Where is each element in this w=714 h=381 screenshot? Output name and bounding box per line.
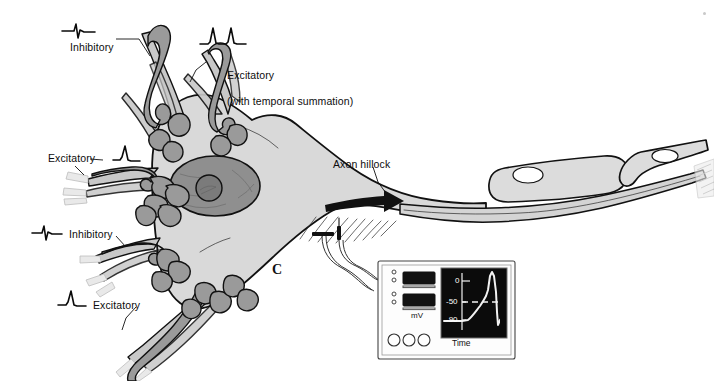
corner-speck (703, 12, 706, 15)
control-knobs (388, 334, 430, 346)
leader-inhibitory-left (116, 236, 126, 247)
scope-ytick-minus90: -90 (446, 315, 458, 324)
neuron-illustration: .ink { fill:none; stroke:#111; stroke-wi… (0, 0, 714, 381)
scope-unit-label: mV (411, 311, 423, 320)
scope-time-axis-label: Time (452, 338, 471, 348)
label-excitatory-top-line1: Excitatory (227, 69, 274, 81)
waveform-excitatory-lower (58, 291, 86, 306)
readout-panel-2 (403, 294, 435, 306)
scope-ytick-minus50: -50 (446, 297, 458, 306)
schwann-cell-nucleus-1 (513, 167, 543, 183)
label-excitatory-left: Excitatory (48, 152, 95, 165)
waveform-inhibitory-left (32, 226, 62, 240)
label-excitatory-top: Excitatory (with temporal summation) (215, 56, 353, 121)
knob-3 (418, 334, 430, 346)
nucleolus (196, 175, 222, 201)
label-excitatory-lower: Excitatory (93, 299, 140, 312)
waveform-inhibitory-top (62, 24, 95, 38)
knob-2 (403, 334, 415, 346)
oscilloscope[interactable] (378, 261, 515, 359)
schwann-cell-nucleus-2 (652, 150, 678, 163)
readout-panel-1 (403, 272, 435, 284)
waveform-excitatory-temporal-summation (200, 28, 246, 44)
panel-letter-c: C (272, 262, 282, 278)
figure-canvas: .ink { fill:none; stroke:#111; stroke-wi… (0, 0, 714, 381)
label-inhibitory-top: Inhibitory (70, 41, 114, 54)
label-axon-hillock: Axon hillock (333, 158, 390, 171)
recording-electrodes (312, 218, 381, 291)
scope-ytick-0: 0 (455, 276, 459, 285)
label-excitatory-top-line2: (with temporal summation) (227, 95, 353, 107)
waveform-excitatory-left (113, 146, 140, 161)
electrode-wires (322, 236, 381, 291)
axon (400, 140, 714, 222)
nucleus (170, 156, 260, 216)
knob-1 (388, 334, 400, 346)
label-inhibitory-left: Inhibitory (69, 228, 113, 241)
